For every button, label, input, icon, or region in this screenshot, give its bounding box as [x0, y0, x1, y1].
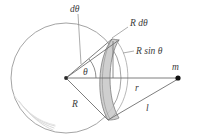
- label-r-dtheta: R dθ: [129, 18, 148, 28]
- label-distance-l: l: [146, 103, 149, 113]
- mass-point-marker: [175, 75, 180, 80]
- sphere-centre-point: [64, 76, 68, 80]
- label-r-sin-theta: R sin θ: [135, 46, 163, 56]
- figure-canvas: dθ R dθ R sin θ θ R r l m: [0, 0, 200, 140]
- sphere-ring-diagram: dθ R dθ R sin θ θ R r l m: [0, 0, 200, 140]
- label-mass-m: m: [172, 62, 179, 72]
- dtheta-leader-line: [78, 14, 81, 64]
- line-l-ring-to-mass: [108, 79, 178, 120]
- ring-element-band: [100, 39, 119, 120]
- label-distance-r: r: [135, 83, 139, 93]
- r-sin-theta-leader-line: [123, 51, 134, 53]
- label-dtheta: dθ: [70, 4, 80, 14]
- sphere-shading-arcs: [14, 95, 55, 130]
- r-dtheta-leader-line: [112, 27, 128, 38]
- label-radius-R: R: [71, 99, 78, 109]
- theta-angle-arc: [89, 59, 96, 78]
- label-theta: θ: [83, 67, 88, 77]
